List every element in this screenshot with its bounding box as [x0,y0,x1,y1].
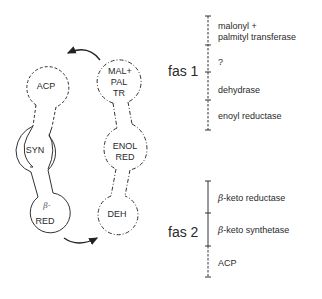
beta-red-node-prefix: β- [43,201,50,211]
mal-pal-tr-node-label-line2: PAL [111,77,127,87]
fas2-domain-keto-reductase: β-keto reductase [218,193,285,203]
fas1-domain-transferase-line1: malonyl + [218,21,257,31]
fas1-domain-unknown: ? [218,57,223,67]
fas1-domain-dehydrase: dehydrase [218,85,260,95]
top-arrow [68,50,100,60]
mal-pal-tr-node-label-line1: MAL+ [108,66,132,76]
enol-red-node-label-line2: RED [115,152,134,162]
beta-red-domain-outline [30,193,70,233]
acp-node-label: ACP [37,81,56,91]
fas2-domain-acp: ACP [218,258,237,268]
fas1-gene-bar [205,16,211,130]
fas1-domain-transferase-line2: palmityl transferase [218,32,296,42]
enol-red-node-label-line1: ENOL [113,141,138,151]
fas1-gene-label: fas 1 [168,63,198,79]
fas2-gene-label: fas 2 [168,224,198,240]
beta-red-node-label: RED [35,216,54,226]
syn-node-label: SYN [26,145,45,155]
mal-pal-tr-node-label-line3: TR [113,88,125,98]
fatty-acid-synthase-diagram [0,0,322,299]
fas2-gene-bar [205,181,211,277]
deh-node-label: DEH [107,209,126,219]
fas1-domain-enoyl-reductase: enoyl reductase [218,111,282,121]
bottom-arrow [64,238,97,243]
fas2-domain-keto-synthetase: β-keto synthetase [218,225,289,235]
